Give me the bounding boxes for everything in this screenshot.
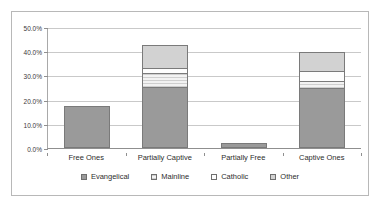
x-axis-tick [361,153,362,156]
x-axis-label-3: Captive Ones [283,153,362,162]
bar-segment-evangelical[interactable] [64,106,110,148]
bar-series-group [48,28,361,148]
legend-swatch-icon [151,174,157,180]
legend-label: Catholic [221,172,248,181]
stacked-bar[interactable] [142,45,188,148]
plot-area: 0.0%10.0%20.0%30.0%40.0%50.0% [47,28,361,149]
x-axis-tick [126,153,127,156]
x-axis-label-2: Partially Free [204,153,283,162]
bar-segment-other[interactable] [142,45,188,68]
y-axis-tick-label: 20.0% [24,97,42,104]
x-axis-labels: Free OnesPartially CaptivePartially Free… [47,153,361,162]
stacked-bar[interactable] [64,106,110,148]
legend-swatch-icon [211,174,217,180]
bar-slot [205,28,283,148]
x-axis-tick [47,153,48,156]
bar-slot [126,28,204,148]
bar-segment-evangelical[interactable] [221,143,267,148]
x-axis-tick [283,153,284,156]
legend-item-mainline[interactable]: Mainline [151,172,189,181]
y-axis-tick [44,149,48,150]
y-axis-tick-label: 30.0% [24,73,42,80]
bar-segment-mainline[interactable] [142,73,188,87]
legend-swatch-icon [270,174,276,180]
legend-label: Mainline [161,172,189,181]
x-axis-label-0: Free Ones [47,153,126,162]
legend-label: Other [280,172,299,181]
y-axis-tick-label: 10.0% [24,121,42,128]
legend-swatch-icon [81,174,87,180]
y-axis-tick-label: 40.0% [24,49,42,56]
legend-item-other[interactable]: Other [270,172,299,181]
legend-item-catholic[interactable]: Catholic [211,172,248,181]
bar-segment-mainline[interactable] [299,81,345,88]
y-axis-tick-label: 0.0% [27,146,42,153]
bar-slot [283,28,361,148]
x-axis-tick [204,153,205,156]
bar-segment-other[interactable] [299,52,345,71]
chart-legend: EvangelicalMainlineCatholicOther [12,172,368,181]
bar-slot [48,28,126,148]
legend-item-evangelical[interactable]: Evangelical [81,172,129,181]
y-axis-tick-label: 50.0% [24,25,42,32]
chart-frame: 0.0%10.0%20.0%30.0%40.0%50.0% Free OnesP… [11,11,369,196]
bar-segment-catholic[interactable] [299,71,345,81]
legend-label: Evangelical [91,172,129,181]
x-axis-label-1: Partially Captive [126,153,205,162]
stacked-bar[interactable] [299,52,345,148]
bar-segment-evangelical[interactable] [299,88,345,149]
bar-segment-evangelical[interactable] [142,87,188,148]
stacked-bar[interactable] [221,143,267,148]
